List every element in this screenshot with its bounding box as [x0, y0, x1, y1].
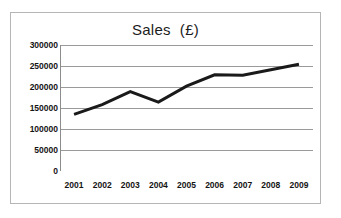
y-axis-tick-label: 250000	[12, 62, 58, 71]
x-axis-tick-labels: 2001 2002 2003 2004 2005 2006 2007 2008 …	[60, 181, 313, 195]
y-axis-tick-label: 50000	[12, 146, 58, 155]
y-axis-tick-label: 300000	[12, 41, 58, 50]
y-axis-tick-label: 100000	[12, 125, 58, 134]
y-axis-tick-label: 200000	[12, 83, 58, 92]
x-axis-tick-label: 2005	[172, 181, 200, 195]
y-axis-tick-label: 150000	[12, 104, 58, 113]
chart-title: Sales (£)	[11, 21, 320, 38]
y-axis-tick-labels: 300000 250000 200000 150000 100000 50000…	[11, 45, 58, 171]
x-axis-tick-label: 2001	[60, 181, 88, 195]
x-axis-tick-label: 2004	[144, 181, 172, 195]
x-axis-tick-label: 2006	[201, 181, 229, 195]
x-axis-tick-label: 2007	[229, 181, 257, 195]
gridlines	[60, 46, 313, 172]
data-series-line	[74, 64, 299, 114]
chart-frame: Sales (£) 300000 250000 200000 150000 10…	[10, 12, 321, 204]
x-axis-tick-label: 2003	[116, 181, 144, 195]
series-lines	[74, 64, 299, 114]
x-axis-tick-label: 2009	[285, 181, 313, 195]
line-chart-svg	[60, 45, 313, 171]
y-axis-tick-label: 0	[12, 167, 58, 176]
plot-area	[60, 45, 313, 171]
x-axis-tick-label: 2002	[88, 181, 116, 195]
x-axis-tick-label: 2008	[257, 181, 285, 195]
